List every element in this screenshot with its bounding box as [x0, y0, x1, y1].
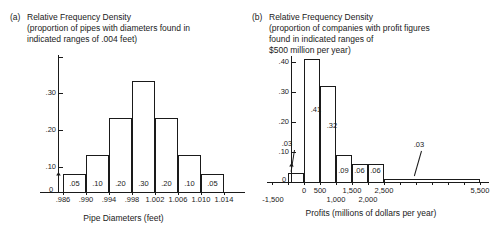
chart-b-x-axis	[267, 182, 489, 183]
chart-b-ytick-40	[292, 62, 296, 63]
chart-b-barlabel-3: .32	[322, 122, 342, 130]
chart-a-barlabel-7: .05	[201, 180, 224, 188]
panel-b: (b) Relative Frequency Density (proporti…	[247, 0, 494, 235]
chart-b-ylabel-10: .10	[265, 148, 289, 156]
chart-b-xtick-5000	[464, 182, 465, 185]
chart-b-ylabel-30: .30	[265, 88, 289, 96]
chart-b-bar-1	[288, 173, 304, 182]
chart-b-xlabel-500: 500	[307, 187, 333, 195]
chart-a-bar-4	[132, 81, 155, 192]
chart-b-xtick-4500	[448, 182, 449, 185]
chart-b-xtick-3000	[400, 182, 401, 185]
chart-b-barlabel-6: .06	[367, 167, 384, 175]
chart-a-ylabel-10: .10	[30, 163, 56, 171]
chart-b-xtick-3500	[416, 182, 417, 185]
chart-b-xlabel-1500: 1,500	[337, 187, 367, 195]
chart-a-barlabel-2: .10	[86, 180, 109, 188]
chart-a-axis-title: Pipe Diameters (feet)	[0, 213, 247, 223]
chart-b-bar-3	[320, 86, 336, 182]
chart-b-xtick-1500	[352, 182, 353, 185]
chart-b-bar-2	[304, 59, 320, 182]
chart-b-barlabel-7: .03	[407, 141, 431, 149]
chart-a-ylabel-30: .30	[30, 89, 56, 97]
chart-a-ylabel-0: 0	[49, 186, 53, 194]
chart-b-xlabel-1000: 1,000	[321, 196, 351, 204]
chart-a-axis-break-icon	[55, 172, 62, 184]
chart-b-xtick-1000	[336, 182, 337, 185]
chart-b-ylabel-0: 0	[282, 176, 286, 184]
chart-b-xtick-2000	[368, 182, 369, 185]
chart-a-barlabel-4: .30	[132, 180, 155, 188]
chart-b-xlabel-5500: 5,500	[465, 187, 495, 195]
chart-b-barlabel-2: .41	[306, 106, 326, 114]
chart-b-barlabel-1: .03	[275, 140, 299, 148]
chart-b-xtick-n1500	[272, 182, 273, 185]
chart-a-barlabel-3: .20	[109, 180, 132, 188]
chart-b-xtick-0	[304, 182, 305, 185]
chart-a-barlabel-6: .10	[178, 180, 201, 188]
chart-b-ytick-20	[292, 122, 296, 123]
chart-a-xlabel-8: 1.014	[208, 196, 240, 204]
chart-a-ytick-top	[59, 57, 63, 58]
chart-b: .40 .30 .20 .10 0 .03 .41 .32 .09 .06 .0…	[247, 0, 495, 235]
chart-a-barlabel-1: .05	[63, 180, 86, 188]
chart-a-ylabel-20: .20	[30, 126, 56, 134]
chart-b-xlabel-2000: 2,000	[353, 196, 383, 204]
chart-b-xlabel-2500: 2,500	[369, 187, 399, 195]
chart-b-xtick-4000	[432, 182, 433, 185]
chart-b-barlabel-5: .06	[351, 167, 368, 175]
chart-b-xtick-2500	[384, 182, 385, 185]
chart-b-ytick-30	[292, 92, 296, 93]
chart-a-ytick-30	[59, 93, 63, 94]
panel-a: (a) Relative Frequency Density (proporti…	[0, 0, 247, 235]
chart-b-xtick-n500	[288, 182, 289, 185]
chart-b-barlabel-4: .09	[335, 167, 352, 175]
chart-b-leader-7	[414, 151, 422, 176]
chart-b-xlabel-n1500: -1,500	[257, 196, 289, 204]
chart-b-axis-title: Profits (millions of dollars per year)	[247, 208, 495, 218]
chart-b-ylabel-40: .40	[265, 58, 289, 66]
chart-a: .30 .20 .10 0 .05 .10 .20 .30 .20 .10 .0…	[0, 0, 247, 235]
chart-b-xtick-5500	[480, 182, 481, 185]
chart-b-ylabel-20: .20	[265, 118, 289, 126]
chart-a-ytick-20	[59, 130, 63, 131]
chart-a-ytick-10	[59, 167, 63, 168]
chart-a-barlabel-5: .20	[155, 180, 178, 188]
chart-a-x-axis	[40, 192, 245, 193]
chart-b-xtick-500	[320, 182, 321, 185]
